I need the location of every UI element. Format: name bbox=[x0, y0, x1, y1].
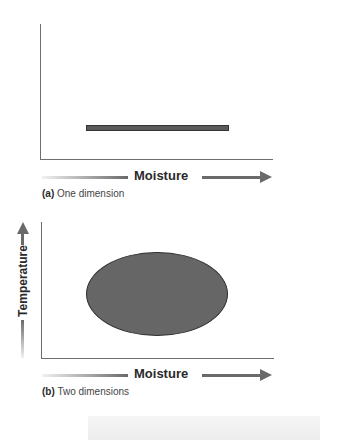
y-axis-label: Temperature bbox=[16, 244, 30, 318]
axis-line-right bbox=[202, 176, 262, 179]
axis-line-left bbox=[42, 374, 128, 377]
panel-b-x-axis: Moisture bbox=[42, 368, 274, 382]
axis-line-left bbox=[42, 176, 128, 179]
axis-line-right bbox=[202, 374, 262, 377]
caption-letter: (a) bbox=[42, 188, 54, 199]
panel-a-caption: (a) One dimension bbox=[42, 188, 124, 199]
x-axis-label: Moisture bbox=[134, 168, 188, 183]
panel-a-plot-area bbox=[40, 24, 273, 160]
panel-b-caption: (b) Two dimensions bbox=[42, 386, 129, 397]
axis-line-bottom bbox=[21, 320, 24, 358]
caption-letter: (b) bbox=[42, 386, 55, 397]
two-dimension-niche-ellipse bbox=[86, 252, 228, 336]
one-dimension-niche-bar bbox=[86, 125, 229, 131]
caption-text: One dimension bbox=[57, 188, 124, 199]
arrow-right-icon bbox=[260, 171, 272, 183]
arrow-right-icon bbox=[260, 369, 272, 381]
caption-text: Two dimensions bbox=[57, 386, 129, 397]
panel-b-y-axis: Temperature bbox=[16, 222, 30, 362]
x-axis-label: Moisture bbox=[134, 366, 188, 381]
page-shadow bbox=[88, 416, 320, 440]
panel-a-x-axis: Moisture bbox=[42, 170, 274, 184]
